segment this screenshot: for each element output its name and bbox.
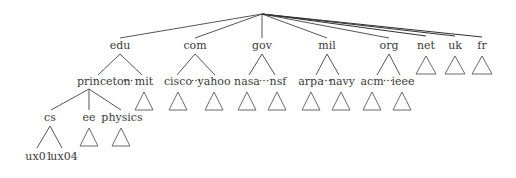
node-ux04: ux04 xyxy=(50,150,77,163)
subtree-triangle-icon xyxy=(302,92,320,110)
ellipsis: ··· xyxy=(123,75,134,88)
root-edges xyxy=(120,14,482,38)
node-physics: physics xyxy=(101,111,143,124)
second-level-labels: princeton ··· mit cisco ··· yahoo nasa ·… xyxy=(77,75,415,88)
subtree-triangle-icon xyxy=(472,56,492,74)
subtree-triangle-icon xyxy=(80,128,98,146)
edge-gov-children xyxy=(249,54,275,75)
subtree-triangle-icon xyxy=(332,92,350,110)
subtree-triangle-icon xyxy=(238,92,256,110)
subtree-triangle-icon xyxy=(205,92,223,110)
node-net: net xyxy=(417,39,436,52)
subtree-triangle-icon xyxy=(363,92,381,110)
node-cisco: cisco xyxy=(164,75,192,88)
princeton-edges xyxy=(51,89,121,110)
subtree-triangle-icon xyxy=(445,56,465,74)
third-level-labels: cs ee physics xyxy=(44,111,143,124)
edge-princeton-physics xyxy=(89,89,121,110)
node-ee: ee xyxy=(82,111,95,124)
node-cs: cs xyxy=(44,111,56,124)
edge-root-edu xyxy=(120,14,262,38)
node-fr: fr xyxy=(477,39,487,52)
edge-edu-children xyxy=(98,54,142,75)
ellipsis: ··· xyxy=(259,75,270,88)
node-mil: mil xyxy=(318,39,336,52)
node-com: com xyxy=(183,39,207,52)
node-nsf: nsf xyxy=(270,75,288,88)
node-yahoo: yahoo xyxy=(196,75,230,88)
tld-subtree-triangles xyxy=(416,56,492,74)
node-uk: uk xyxy=(448,39,462,52)
node-gov: gov xyxy=(252,39,273,52)
node-edu: edu xyxy=(110,39,131,52)
node-acm: acm xyxy=(360,75,384,88)
node-ux01: ux01 xyxy=(25,150,52,163)
edge-org-children xyxy=(377,54,400,75)
edge-mil-children xyxy=(316,54,339,75)
subtree-triangle-icon xyxy=(135,92,153,110)
node-navy: navy xyxy=(329,75,356,88)
subtree-triangle-icon xyxy=(169,92,187,110)
dns-tree-diagram: edu com gov mil org net uk fr princeton … xyxy=(0,0,516,178)
edge-com-children xyxy=(177,54,215,75)
node-mit: mit xyxy=(135,75,154,88)
node-ieee: ieee xyxy=(391,75,414,88)
subtree-triangle-icon xyxy=(416,56,436,74)
fourth-level-labels: ux01 ux04 xyxy=(25,150,77,163)
tree-svg: edu com gov mil org net uk fr princeton … xyxy=(0,0,516,178)
edge-root-fr xyxy=(262,14,482,37)
subtree-triangle-icon xyxy=(393,92,411,110)
node-org: org xyxy=(380,39,399,52)
second-level-subtree-triangles xyxy=(135,92,411,110)
edge-princeton-cs xyxy=(51,89,89,110)
edge-cs-children xyxy=(37,126,62,148)
subtree-triangle-icon xyxy=(112,128,130,146)
third-level-subtree-triangles xyxy=(80,128,130,146)
subtree-triangle-icon xyxy=(268,92,286,110)
tld-fan-edges xyxy=(98,54,400,75)
tld-labels: edu com gov mil org net uk fr xyxy=(110,39,488,52)
edge-root-com xyxy=(195,14,262,38)
node-nasa: nasa xyxy=(234,75,260,88)
